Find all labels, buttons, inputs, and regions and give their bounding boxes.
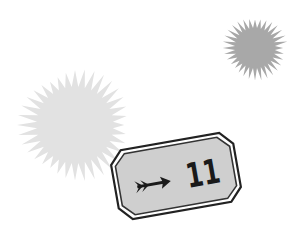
scene-canvas: 11 <box>0 0 306 244</box>
large-light-starburst <box>17 70 127 182</box>
level-badge: 11 <box>109 131 243 221</box>
badge-number: 11 <box>183 151 223 196</box>
small-dark-starburst <box>223 19 287 81</box>
